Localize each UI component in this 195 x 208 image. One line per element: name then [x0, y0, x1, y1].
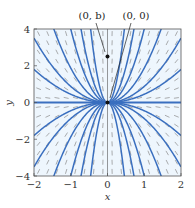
- annotation-label-0-0: (0, 0): [123, 10, 150, 21]
- y-tick-label: 0: [24, 97, 30, 108]
- point-marker: [106, 101, 110, 105]
- x-tick-label: 2: [178, 179, 184, 190]
- x-tick-label: 0: [104, 179, 110, 190]
- x-axis-label: x: [105, 191, 111, 202]
- y-axis-label: y: [3, 100, 14, 107]
- y-tick-label: 2: [24, 60, 30, 71]
- annotation-label-0-b: (0, b): [79, 10, 106, 21]
- y-tick-label: 4: [24, 24, 30, 35]
- x-tick-label: −1: [63, 179, 78, 190]
- point-marker: [106, 55, 110, 59]
- x-tick-label: 1: [141, 179, 147, 190]
- y-tick-label: −2: [15, 134, 30, 145]
- direction-field-chart: −2−1012 −4−2024 x y (0, b) (0, 0): [0, 0, 195, 208]
- y-tick-label: −4: [15, 171, 30, 182]
